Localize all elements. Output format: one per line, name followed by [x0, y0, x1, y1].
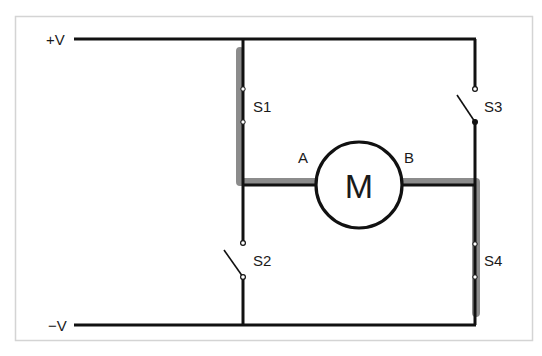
- switch-s1-contact-bottom: [241, 120, 245, 124]
- switch-s3-label: S3: [484, 98, 502, 115]
- motor-terminal-b-label: B: [404, 149, 414, 166]
- switch-s2-label: S2: [253, 252, 271, 269]
- h-bridge-diagram: +V −V S1 S2 S3 S4 A B M: [0, 0, 542, 356]
- switch-s4-contact-bottom: [473, 275, 477, 279]
- positive-rail-label: +V: [46, 31, 65, 48]
- negative-rail-label: −V: [48, 317, 67, 334]
- motor-terminal-a-label: A: [298, 149, 308, 166]
- switch-s1-contact-top: [241, 87, 245, 91]
- switch-s4-label: S4: [484, 252, 502, 269]
- switch-s3-contact-bottom: [473, 120, 478, 125]
- switch-s3-contact-top: [473, 87, 478, 92]
- switch-s2-contact-bottom: [241, 275, 246, 280]
- switch-s1-label: S1: [253, 98, 271, 115]
- motor-label: M: [345, 167, 373, 205]
- switch-s2-contact-top: [241, 241, 246, 246]
- switch-s4-contact-top: [473, 242, 477, 246]
